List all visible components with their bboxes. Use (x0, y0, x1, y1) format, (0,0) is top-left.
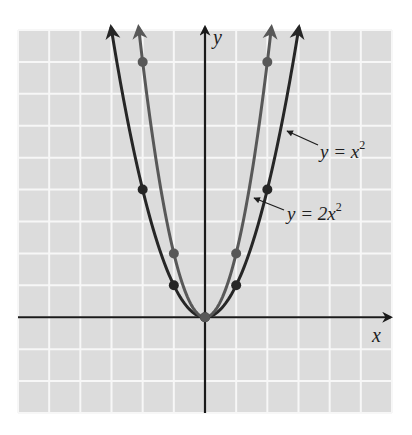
y-axis-label: y (211, 26, 222, 49)
parabola-chart: y x y = x2 y = 2x2 (0, 0, 412, 435)
data-point (138, 57, 148, 67)
label-y-equals-2x-squared: y = 2x2 (285, 200, 342, 224)
data-point (231, 248, 241, 258)
data-point (231, 280, 241, 290)
data-point (262, 185, 272, 195)
data-point (262, 57, 272, 67)
data-point (138, 185, 148, 195)
data-point (200, 312, 210, 322)
data-point (169, 248, 179, 258)
data-point (169, 280, 179, 290)
label-y-equals-x-squared: y = x2 (318, 138, 365, 162)
x-axis-label: x (371, 324, 381, 346)
